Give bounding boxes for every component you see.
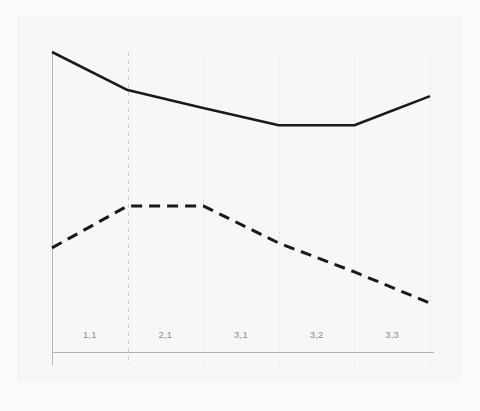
gridlines-group bbox=[53, 52, 431, 365]
x-axis-label-3-2: 3,2 bbox=[310, 329, 324, 340]
line-chart-plot bbox=[0, 0, 480, 411]
x-axis-label-3-3: 3,3 bbox=[385, 329, 399, 340]
x-axis-label-2-1: 2,1 bbox=[158, 329, 172, 340]
series-line-solid bbox=[52, 52, 430, 125]
series-line-dashed bbox=[52, 206, 430, 303]
chart-canvas: 1,12,13,13,23,3 bbox=[0, 0, 480, 411]
x-axis-label-1-1: 1,1 bbox=[83, 329, 97, 340]
x-axis-label-3-1: 3,1 bbox=[234, 329, 248, 340]
